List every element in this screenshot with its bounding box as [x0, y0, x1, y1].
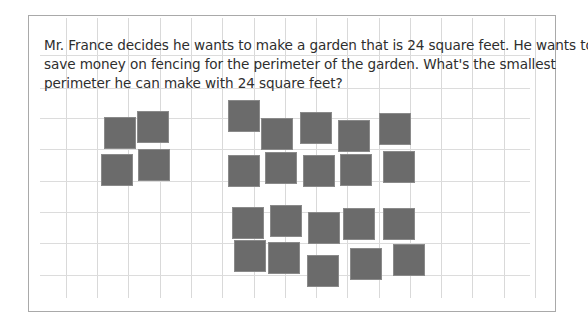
square-tile[interactable] [393, 244, 425, 276]
square-tile[interactable] [234, 240, 266, 272]
square-tile[interactable] [343, 208, 375, 240]
question-line-2: save money on fencing for the perimeter … [44, 55, 544, 74]
question-line-1: Mr. France decides he wants to make a ga… [44, 36, 544, 55]
square-tile[interactable] [300, 112, 332, 144]
question-line-3: perimeter he can make with 24 square fee… [44, 74, 544, 93]
question-text: Mr. France decides he wants to make a ga… [44, 36, 544, 93]
square-tile[interactable] [379, 113, 411, 145]
square-tile[interactable] [265, 152, 297, 184]
square-tile[interactable] [350, 248, 382, 280]
square-tile[interactable] [138, 149, 170, 181]
square-tile[interactable] [303, 155, 335, 187]
square-tile[interactable] [101, 154, 133, 186]
square-tile[interactable] [228, 155, 260, 187]
square-tile[interactable] [383, 208, 415, 240]
square-tile[interactable] [268, 242, 300, 274]
square-tile[interactable] [308, 212, 340, 244]
square-tile[interactable] [232, 207, 264, 239]
square-tile[interactable] [338, 120, 370, 152]
square-tile[interactable] [228, 100, 260, 132]
square-tile[interactable] [383, 151, 415, 183]
square-tile[interactable] [340, 154, 372, 186]
square-tile[interactable] [137, 111, 169, 143]
square-tile[interactable] [307, 255, 339, 287]
square-tile[interactable] [261, 118, 293, 150]
square-tile[interactable] [104, 117, 136, 149]
square-tile[interactable] [270, 205, 302, 237]
